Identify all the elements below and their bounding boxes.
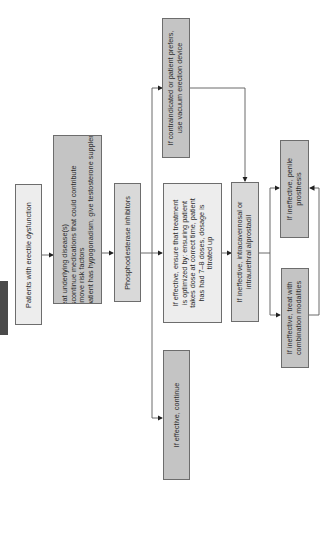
node-vacuum-device-text: If contraindicated or patient prefers, u…: [167, 31, 184, 146]
node-optimize-treatment: If effective, ensure that treatment is o…: [163, 183, 222, 323]
node-combination-text: If ineffective, treat with combination m…: [286, 281, 303, 355]
list-item: 4.If patient has hypogonadism, give test…: [86, 135, 95, 304]
node-vacuum-device: If contraindicated or patient prefers, u…: [162, 18, 190, 158]
node-continue: If effective, continue: [163, 350, 190, 480]
text-line: combination modalities: [295, 281, 304, 355]
initial-steps-list: 1.Treat underlying disease(s) 2.Disconti…: [60, 135, 94, 304]
node-prosthesis-text: If ineffective, penile prosthesis: [286, 158, 303, 220]
node-alprostadil-text: If ineffective, intracavernosal or intra…: [236, 202, 253, 303]
node-alprostadil: If ineffective, intracavernosal or intra…: [231, 182, 259, 322]
node-patients-ed-label: Patients with erectile dysfunction: [24, 202, 33, 308]
text-line: intraurethral alprostadil: [245, 202, 254, 303]
node-patients-ed: Patients with erectile dysfunction: [15, 184, 42, 325]
node-pde-inhibitors: Phosphodiesterase inhibitors: [114, 183, 141, 302]
node-pde-inhibitors-label: Phosphodiesterase inhibitors: [123, 196, 132, 290]
text-line: takes dose at correct time, patient: [188, 198, 197, 308]
text-line: use vacuum erection device: [176, 31, 185, 146]
text-line: prosthesis: [295, 158, 304, 220]
node-continue-label: If effective, continue: [172, 383, 181, 448]
text-line: If ineffective, penile: [286, 158, 295, 220]
text-line: If effective, ensure that treatment: [171, 198, 180, 308]
text-line: titrated up: [205, 198, 214, 308]
node-initial-steps: 1.Treat underlying disease(s) 2.Disconti…: [53, 135, 102, 304]
node-combination-modalities: If ineffective, treat with combination m…: [281, 268, 309, 368]
node-optimize-text: If effective, ensure that treatment is o…: [171, 198, 214, 308]
node-penile-prosthesis: If ineffective, penile prosthesis: [280, 140, 309, 238]
